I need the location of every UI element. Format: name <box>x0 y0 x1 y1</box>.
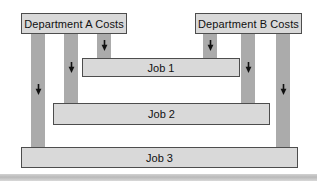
down-arrow-icon <box>101 40 108 51</box>
job-1-box: Job 1 <box>82 58 240 77</box>
department-a-costs-label: Department A Costs <box>24 18 124 30</box>
department-b-costs-box: Department B Costs <box>195 13 302 34</box>
job-costing-diagram: Department A Costs Department B Costs Jo… <box>0 0 317 183</box>
down-arrow-icon <box>35 84 42 95</box>
down-arrow-icon <box>207 40 214 51</box>
department-b-costs-label: Department B Costs <box>198 18 299 30</box>
job-1-label: Job 1 <box>148 62 175 74</box>
job-2-box: Job 2 <box>53 103 270 125</box>
bottom-divider-rule <box>0 174 317 181</box>
down-arrow-icon <box>280 84 287 95</box>
job-2-label: Job 2 <box>148 108 175 120</box>
department-a-costs-box: Department A Costs <box>21 13 127 34</box>
down-arrow-icon <box>245 62 252 73</box>
down-arrow-icon <box>68 62 75 73</box>
job-3-label: Job 3 <box>146 152 173 164</box>
job-3-box: Job 3 <box>21 147 298 168</box>
